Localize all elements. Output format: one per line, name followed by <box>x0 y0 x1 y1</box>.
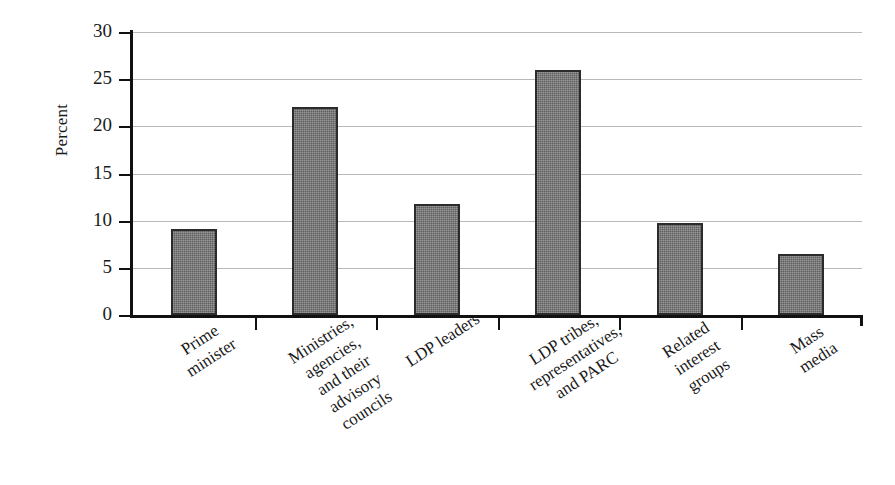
bar-chart: Percent 051015202530 Prime ministerMinis… <box>0 0 895 485</box>
bar <box>292 107 338 315</box>
y-axis-tick: 20 <box>119 126 131 128</box>
bar <box>171 229 217 315</box>
y-axis-tick-label: 25 <box>93 68 112 88</box>
gridline <box>133 268 862 269</box>
plot-area: 051015202530 <box>133 32 862 315</box>
y-axis-tick-label: 0 <box>103 304 113 324</box>
bar <box>778 254 824 315</box>
gridline <box>133 32 862 33</box>
y-axis-tick-label: 30 <box>93 21 112 41</box>
y-axis-title: Percent <box>52 70 72 190</box>
gridline <box>133 174 862 175</box>
y-axis-tick: 0 <box>119 315 131 317</box>
bar <box>657 223 703 315</box>
y-axis-tick: 30 <box>119 32 131 34</box>
gridline <box>133 79 862 80</box>
gridline <box>133 126 862 127</box>
y-axis-tick-label: 10 <box>93 210 112 230</box>
bar <box>535 70 581 315</box>
x-axis-tick <box>498 318 500 330</box>
gridline <box>133 221 862 222</box>
y-axis-tick: 5 <box>119 268 131 270</box>
y-axis-tick-label: 15 <box>93 163 112 183</box>
bar <box>414 204 460 315</box>
y-axis-tick-label: 20 <box>93 115 112 135</box>
y-axis-tick: 25 <box>119 79 131 81</box>
y-axis-tick-label: 5 <box>103 257 113 277</box>
y-axis-tick: 15 <box>119 174 131 176</box>
y-axis-tick: 10 <box>119 221 131 223</box>
